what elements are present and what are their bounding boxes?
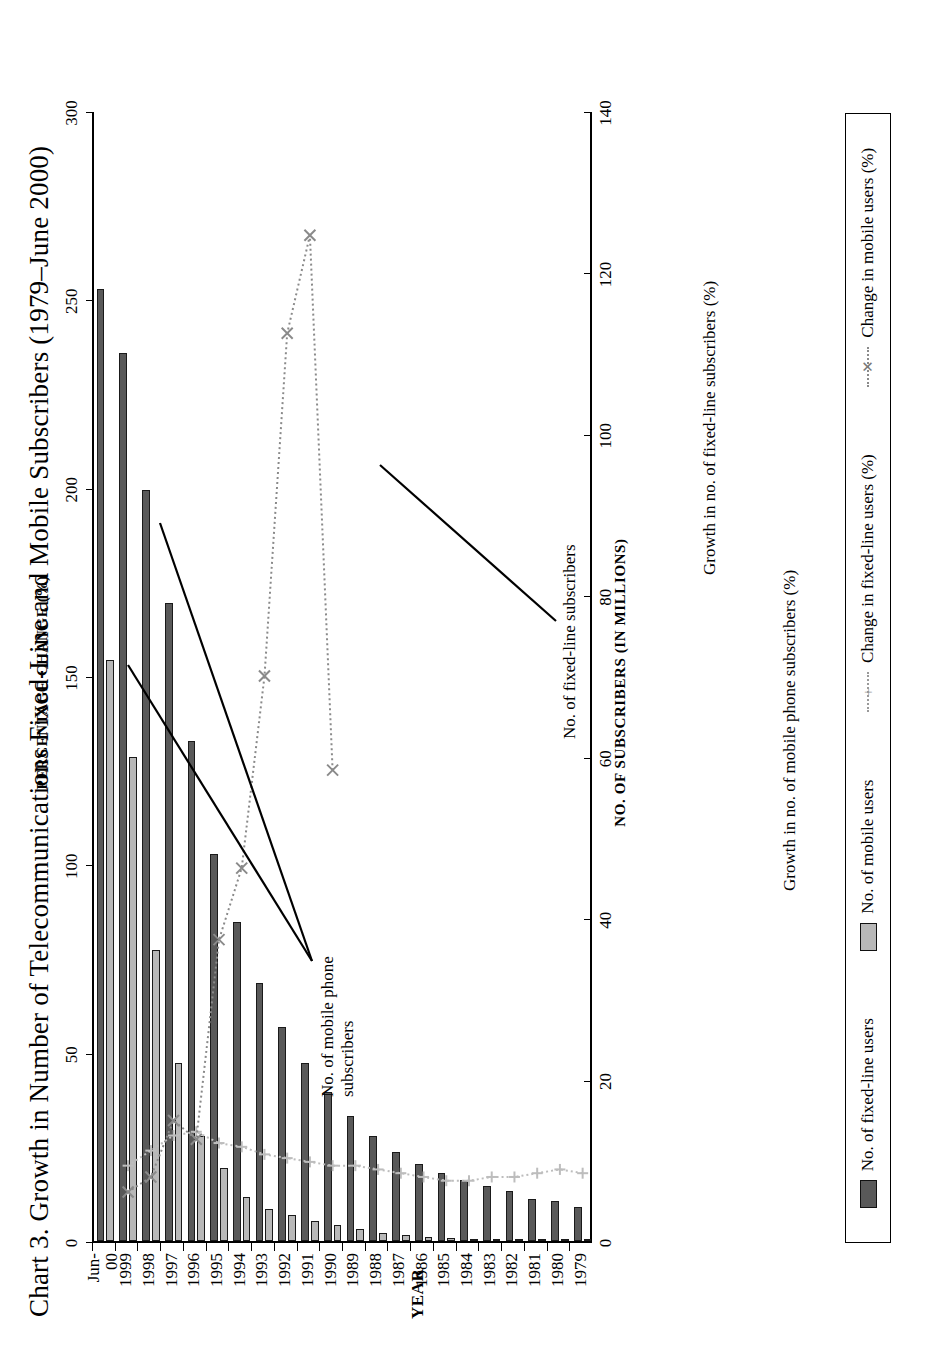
year-tick-mark <box>92 1242 93 1251</box>
year-tick-mark <box>365 1242 366 1251</box>
year-tick-label: 1998 <box>140 1253 158 1287</box>
subscribers-tick-mark <box>584 758 592 759</box>
year-tick-label: 1995 <box>208 1253 226 1287</box>
anno-fixed-subscribers: No. of fixed-line subscribers <box>560 544 580 739</box>
year-axis-ticklabels: 1979198019811982198319841985198619871988… <box>92 1245 592 1365</box>
subscribers-tick-label: 100 <box>596 423 616 449</box>
marker-fixed-change <box>327 1160 338 1171</box>
subscribers-tick-mark <box>584 596 592 597</box>
legend-line-sample: + <box>861 672 875 712</box>
subscribers-tick-label: 0 <box>596 1239 616 1248</box>
year-tick-mark <box>319 1242 320 1251</box>
year-tick-mark <box>433 1242 434 1251</box>
year-tick-label: 1985 <box>435 1253 453 1287</box>
percent-tick-label: 50 <box>62 1046 82 1063</box>
year-tick-label: 1993 <box>254 1253 272 1287</box>
year-tick-label: 1988 <box>367 1253 385 1287</box>
marker-fixed-change <box>304 1156 315 1167</box>
percent-tick-mark <box>86 300 94 301</box>
year-tick-mark <box>228 1242 229 1251</box>
year-tick-mark <box>501 1242 502 1251</box>
year-tick-mark <box>206 1242 207 1251</box>
year-tick-mark <box>183 1242 184 1251</box>
year-tick-mark <box>137 1242 138 1251</box>
year-tick-label: 1994 <box>231 1253 249 1287</box>
marker-fixed-change <box>532 1168 543 1179</box>
percent-tick-mark <box>86 489 94 490</box>
percent-axis-ticklabels: 050100150200250300 <box>62 113 88 1243</box>
year-tick-mark <box>274 1242 275 1251</box>
subscribers-tick-label: 120 <box>596 262 616 288</box>
marker-fixed-change <box>486 1171 497 1182</box>
marker-fixed-change <box>123 1160 134 1171</box>
year-tick-mark <box>251 1242 252 1251</box>
year-tick-label: 1992 <box>276 1253 294 1287</box>
year-axis-title: YEAR <box>408 1269 428 1319</box>
year-tick-mark <box>569 1242 570 1251</box>
marker-mobile-change <box>282 328 293 339</box>
year-tick-label: 1981 <box>526 1253 544 1287</box>
percent-tick-mark <box>86 677 94 678</box>
subscribers-tick-label: 140 <box>596 100 616 126</box>
percent-tick-mark <box>86 112 94 113</box>
marker-fixed-change <box>236 1141 247 1152</box>
marker-fixed-change <box>282 1153 293 1164</box>
year-tick-label: 1996 <box>185 1253 203 1287</box>
year-tick-label: 1980 <box>549 1253 567 1287</box>
subscribers-tick-label: 40 <box>596 912 616 929</box>
year-tick-mark <box>524 1242 525 1251</box>
x-marker-icon: ✕ <box>861 360 876 373</box>
year-tick-label: 1979 <box>572 1253 590 1287</box>
marker-fixed-change <box>395 1168 406 1179</box>
subscribers-tick-label: 20 <box>596 1073 616 1090</box>
marker-mobile-change <box>236 863 247 874</box>
legend-label: No. of fixed-line users <box>858 1018 878 1171</box>
marker-fixed-change <box>145 1145 156 1156</box>
legend-item: No. of mobile users <box>858 780 878 951</box>
chart-legend: No. of fixed-line usersNo. of mobile use… <box>845 113 891 1243</box>
marker-mobile-change <box>327 765 338 776</box>
marker-fixed-change <box>554 1164 565 1175</box>
percent-tick-label: 150 <box>62 665 82 691</box>
year-tick-label: Jun- 00 <box>86 1253 122 1282</box>
rotated-page: Chart 3. Growth in Number of Telecommuni… <box>0 0 929 1365</box>
subscribers-tick-mark <box>584 1081 592 1082</box>
year-tick-label: 1989 <box>344 1253 362 1287</box>
subscribers-axis-title: NO. OF SUBSCRIBERS (IN MILLIONS) <box>612 538 629 826</box>
legend-swatch-fixed-line <box>860 1180 877 1208</box>
subscribers-tick-mark <box>584 435 592 436</box>
marker-fixed-change <box>577 1168 588 1179</box>
year-tick-mark <box>547 1242 548 1251</box>
subscribers-tick-mark <box>584 112 592 113</box>
year-tick-mark <box>115 1242 116 1251</box>
marker-fixed-change <box>259 1149 270 1160</box>
percent-tick-mark <box>86 1054 94 1055</box>
year-tick-mark <box>410 1242 411 1251</box>
year-tick-mark <box>456 1242 457 1251</box>
legend-item: ✕Change in mobile users (%) <box>858 148 878 387</box>
year-tick-mark <box>387 1242 388 1251</box>
marker-mobile-change <box>145 1171 156 1182</box>
percent-tick-label: 200 <box>62 477 82 503</box>
line-mobile-change <box>128 235 333 1192</box>
percent-tick-label: 250 <box>62 289 82 315</box>
marker-mobile-change <box>123 1187 134 1198</box>
legend-swatch-mobile <box>860 923 877 951</box>
percent-tick-label: 100 <box>62 854 82 880</box>
marker-fixed-change <box>418 1171 429 1182</box>
percent-tick-label: 300 <box>62 100 82 126</box>
year-tick-label: 1987 <box>390 1253 408 1287</box>
marker-mobile-change <box>168 1115 179 1126</box>
year-tick-mark <box>342 1242 343 1251</box>
marker-fixed-change <box>373 1164 384 1175</box>
year-tick-label: 1997 <box>163 1253 181 1287</box>
year-tick-mark <box>160 1242 161 1251</box>
legend-label: No. of mobile users <box>858 780 878 914</box>
legend-line-sample: ✕ <box>861 347 875 387</box>
year-tick-mark <box>297 1242 298 1251</box>
marker-fixed-change <box>350 1160 361 1171</box>
anno-mobile-subscribers: No. of mobile phone subscribers <box>318 956 358 1097</box>
marker-fixed-change <box>441 1175 452 1186</box>
percent-tick-label: 0 <box>62 1239 82 1248</box>
subscribers-tick-mark <box>584 273 592 274</box>
